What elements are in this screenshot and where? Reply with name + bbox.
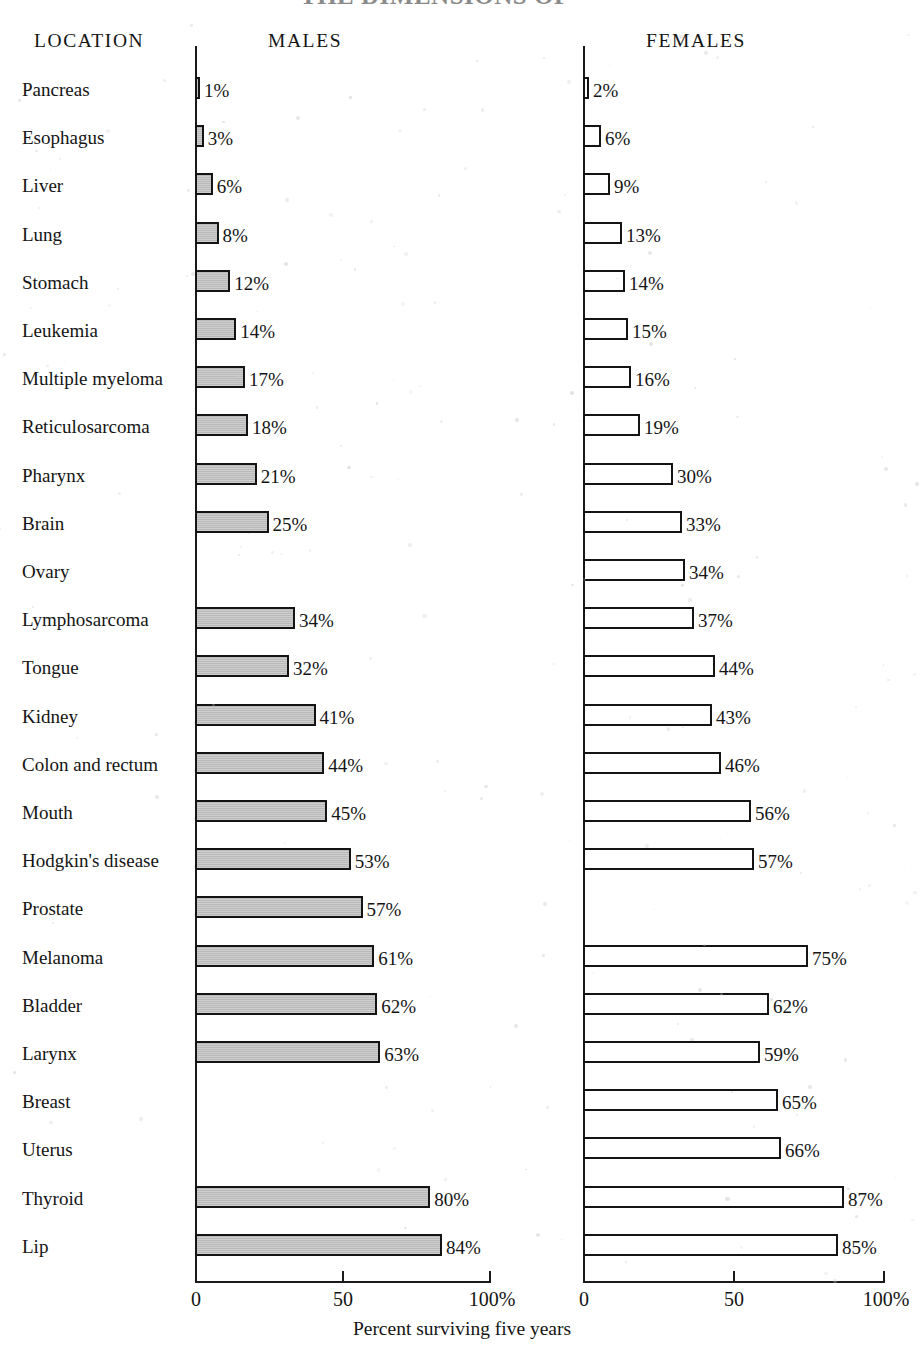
scan-speck <box>64 361 66 363</box>
row-label: Liver <box>22 176 63 195</box>
female-bar-value: 15% <box>632 322 667 341</box>
scan-speck <box>609 65 610 66</box>
male-bar <box>195 993 377 1015</box>
scan-speck <box>654 909 655 910</box>
male-bar-value: 62% <box>381 997 416 1016</box>
scan-speck <box>884 467 888 471</box>
male-bar-value: 25% <box>273 515 308 534</box>
scan-speck <box>404 252 408 256</box>
male-bar <box>195 511 269 533</box>
male-bar-value: 80% <box>434 1190 469 1209</box>
row-label: Esophagus <box>22 128 104 147</box>
scan-speck <box>520 493 523 496</box>
female-bar-value: 37% <box>698 611 733 630</box>
scan-speck <box>904 866 906 868</box>
scan-speck <box>824 1272 828 1276</box>
scan-speck <box>915 482 919 486</box>
scan-speck <box>163 79 167 83</box>
male-bar <box>195 752 324 774</box>
row-label: Melanoma <box>22 948 103 967</box>
scan-speck <box>648 251 652 255</box>
scan-speck <box>422 614 426 618</box>
scan-speck <box>52 922 54 924</box>
scan-speck <box>913 891 916 894</box>
column-header-females: FEMALES <box>646 30 746 52</box>
female-bar <box>583 1234 838 1256</box>
female-bar <box>583 945 808 967</box>
male-bar-value: 3% <box>208 129 233 148</box>
scan-speck <box>753 1126 754 1127</box>
scan-speck <box>736 416 738 418</box>
scan-speck <box>464 167 467 170</box>
male-bar <box>195 1186 430 1208</box>
scan-speck <box>190 24 193 27</box>
scan-speck <box>240 546 243 549</box>
female-bar-value: 59% <box>764 1045 799 1064</box>
scan-speck <box>18 99 21 102</box>
scan-speck <box>911 1219 913 1221</box>
female-bar-value: 75% <box>812 949 847 968</box>
scan-speck <box>649 342 653 346</box>
female-bar <box>583 77 589 99</box>
scan-speck <box>795 201 796 202</box>
scan-speck <box>444 790 446 792</box>
scan-speck <box>654 1114 655 1115</box>
row-label: Prostate <box>22 899 83 918</box>
scan-speck <box>552 663 555 666</box>
row-label: Kidney <box>22 707 78 726</box>
female-bar <box>583 752 721 774</box>
male-tick-label-50: 50 <box>333 1288 353 1311</box>
row-label: Lung <box>22 225 62 244</box>
scan-speck <box>855 1215 859 1219</box>
scan-speck <box>580 420 582 422</box>
scan-speck <box>429 996 430 997</box>
row-label: Ovary <box>22 562 69 581</box>
male-bar <box>195 318 236 340</box>
female-bar-value: 13% <box>626 226 661 245</box>
male-bar <box>195 77 200 99</box>
scan-speck <box>118 492 121 495</box>
scan-speck <box>108 304 112 308</box>
female-bar-value: 9% <box>614 177 639 196</box>
column-header-location: LOCATION <box>34 30 144 52</box>
scan-speck <box>795 203 798 206</box>
scan-speck <box>35 150 37 152</box>
row-label: Thyroid <box>22 1189 83 1208</box>
scan-speck <box>514 1024 518 1028</box>
scan-speck <box>561 1239 563 1241</box>
scan-speck <box>340 445 342 447</box>
female-bar-value: 16% <box>635 370 670 389</box>
scan-speck <box>844 1058 847 1061</box>
male-bar <box>195 366 245 388</box>
female-tick-label-0: 0 <box>579 1288 589 1311</box>
male-bar <box>195 1234 442 1256</box>
female-bar <box>583 173 610 195</box>
scan-speck <box>186 275 188 277</box>
scan-speck <box>476 60 478 62</box>
female-bar <box>583 607 694 629</box>
scan-speck <box>32 606 34 608</box>
row-label: Pancreas <box>22 80 90 99</box>
row-label: Stomach <box>22 273 89 292</box>
scan-speck <box>139 1117 143 1121</box>
scan-speck <box>222 121 224 123</box>
scan-speck <box>436 760 439 763</box>
scan-speck <box>564 194 567 197</box>
x-axis-caption: Percent surviving five years <box>0 1318 924 1340</box>
row-label: Multiple myeloma <box>22 369 163 388</box>
scan-speck <box>778 1109 780 1111</box>
female-bar <box>583 366 631 388</box>
scan-speck <box>340 259 342 261</box>
row-label: Leukemia <box>22 321 98 340</box>
scan-speck <box>187 189 190 192</box>
scan-speck <box>393 379 394 380</box>
scan-speck <box>688 598 692 602</box>
male-tick-0 <box>195 1271 197 1282</box>
scan-speck <box>543 902 547 906</box>
scan-speck <box>543 57 545 59</box>
scan-speck <box>322 1142 324 1144</box>
scan-speck <box>801 706 802 707</box>
scan-speck <box>423 108 426 111</box>
scan-speck <box>567 80 571 84</box>
scan-speck <box>117 288 119 290</box>
